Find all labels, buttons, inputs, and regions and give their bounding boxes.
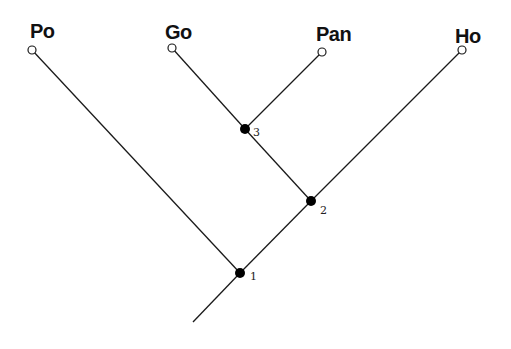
node-label-2: 2 (320, 205, 327, 216)
tip-circle-go (168, 44, 176, 52)
cladogram (0, 0, 511, 349)
branch-n1-root (193, 273, 240, 322)
branch-pan-n3 (245, 52, 322, 129)
tip-circle-ho (458, 46, 466, 54)
branch-n3-n2 (245, 129, 311, 201)
node-dot-2 (306, 196, 316, 206)
taxon-label-po: Po (30, 21, 55, 41)
tip-circle-po (28, 46, 36, 54)
branch-po-n1 (32, 50, 240, 273)
tip-circle-pan (318, 48, 326, 56)
node-dot-3 (240, 124, 250, 134)
node-dot-1 (235, 268, 245, 278)
node-label-3: 3 (253, 127, 260, 138)
branches (32, 48, 462, 322)
branch-ho-n2 (311, 50, 462, 201)
terminal-taxa (28, 44, 466, 56)
branch-go-n3 (172, 48, 245, 129)
taxon-label-go: Go (165, 22, 192, 42)
internal-nodes (235, 124, 316, 278)
taxon-label-pan: Pan (316, 24, 351, 44)
node-label-1: 1 (250, 271, 257, 282)
taxon-label-ho: Ho (455, 26, 481, 46)
branch-n2-n1 (240, 201, 311, 273)
